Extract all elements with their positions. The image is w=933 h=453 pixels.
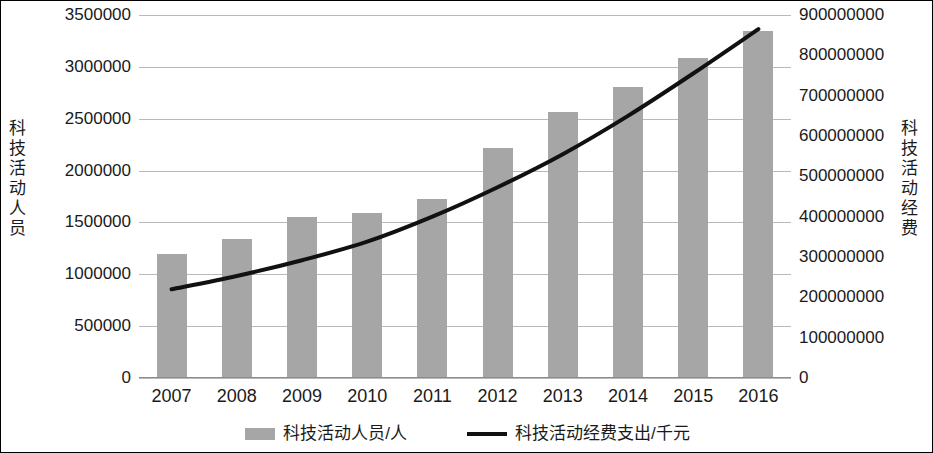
category-label-2011: 2011: [402, 387, 462, 405]
chart-legend: 科技活动人员/人 科技活动经费支出/千元: [1, 425, 933, 442]
right-tick-label: 900000000: [799, 6, 884, 23]
category-label-2013: 2013: [533, 387, 593, 405]
category-label-2009: 2009: [272, 387, 332, 405]
bar-swatch-icon: [245, 428, 275, 440]
right-axis-ticks: 0100000000200000000300000000400000000500…: [799, 1, 909, 453]
category-label-2010: 2010: [337, 387, 397, 405]
left-tick-label: 1500000: [65, 213, 131, 230]
category-label-2014: 2014: [598, 387, 658, 405]
left-tick-label: 3000000: [65, 58, 131, 75]
right-tick-label: 800000000: [799, 46, 884, 63]
right-tick-label: 500000000: [799, 167, 884, 184]
right-tick-label: 400000000: [799, 208, 884, 225]
plot-area: [139, 15, 791, 378]
left-axis-ticks: 0500000100000015000002000000250000030000…: [31, 1, 131, 453]
category-label-2007: 2007: [142, 387, 202, 405]
category-label-2012: 2012: [468, 387, 528, 405]
legend-label-bar: 科技活动人员/人: [283, 425, 407, 442]
legend-label-line: 科技活动经费支出/千元: [515, 425, 690, 442]
left-tick-label: 2000000: [65, 162, 131, 179]
legend-item-line: 科技活动经费支出/千元: [467, 425, 690, 442]
line-swatch-icon: [467, 432, 507, 436]
chart-container: 科技活动人员 科技活动经费 05000001000000150000020000…: [0, 0, 933, 453]
category-axis: 2007200820092010201120122013201420152016: [139, 387, 791, 413]
line-path: [172, 29, 759, 289]
category-label-2015: 2015: [663, 387, 723, 405]
right-tick-label: 100000000: [799, 329, 884, 346]
right-tick-label: 600000000: [799, 127, 884, 144]
right-tick-label: 700000000: [799, 87, 884, 104]
left-tick-label: 0: [122, 369, 131, 386]
left-tick-label: 1000000: [65, 265, 131, 282]
legend-item-bar: 科技活动人员/人: [245, 425, 407, 442]
line-series: [139, 15, 791, 378]
gridline: [139, 378, 791, 379]
category-label-2008: 2008: [207, 387, 267, 405]
left-tick-label: 2500000: [65, 110, 131, 127]
left-tick-label: 500000: [74, 317, 131, 334]
left-tick-label: 3500000: [65, 6, 131, 23]
right-tick-label: 200000000: [799, 288, 884, 305]
category-label-2016: 2016: [728, 387, 788, 405]
right-tick-label: 300000000: [799, 248, 884, 265]
right-tick-label: 0: [799, 369, 808, 386]
left-axis-title: 科技活动人员: [7, 119, 24, 239]
